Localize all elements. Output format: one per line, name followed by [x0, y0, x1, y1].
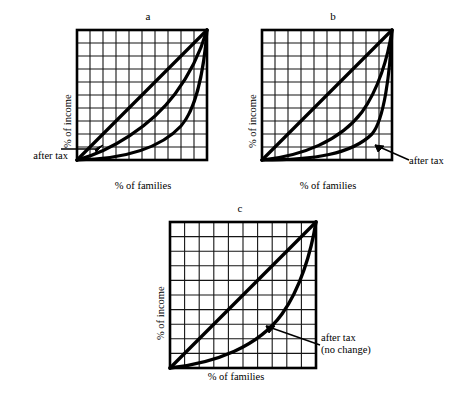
lorenz-curve-figure: a % of income % of families after tax — [0, 0, 472, 399]
panel-a-plot — [77, 30, 209, 180]
panel-a-after-tax-annotation: after tax — [8, 150, 68, 162]
panel-c-annotation-line1: after tax — [321, 332, 421, 344]
panel-a-y-axis-label: % of income — [62, 94, 73, 148]
panel-c-title: c — [220, 202, 260, 214]
panel-b-title: b — [313, 10, 353, 22]
panel-c-after-tax-annotation: after tax (no change) — [321, 332, 421, 355]
panel-a-title: a — [128, 10, 168, 22]
panel-b-y-axis-label: % of income — [247, 94, 258, 148]
panel-c-annotation-arrow — [266, 326, 320, 345]
panel-c-annotation-line2: (no change) — [321, 344, 421, 356]
panel-c-y-axis-label: % of income — [155, 286, 166, 340]
panel-b-after-tax-annotation: after tax — [409, 155, 471, 167]
panel-c-plot — [170, 222, 330, 382]
panel-b-x-axis-label: % of families — [263, 180, 393, 191]
panel-b-plot — [262, 30, 412, 180]
panel-a-x-axis-label: % of families — [78, 180, 208, 191]
